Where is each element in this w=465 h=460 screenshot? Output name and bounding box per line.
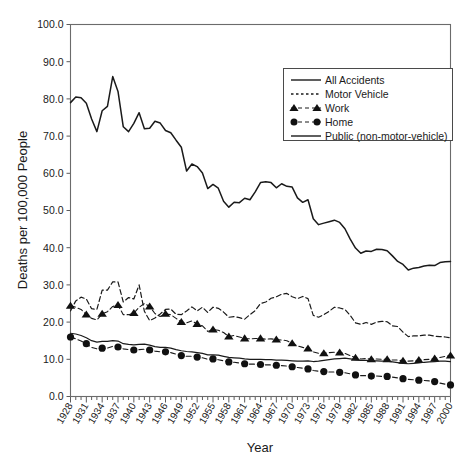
home-series-circle-marker [99,345,106,352]
home-series-circle-marker [289,363,296,370]
y-tick-label: 50.0 [43,204,64,216]
home-series-circle-marker [352,371,359,378]
home-series-circle-marker [447,381,454,388]
home-series-circle-marker [162,348,169,355]
chart-container: Deaths per 100,000 People 0.010.020.030.… [0,0,465,460]
legend-entry-label: Work [325,102,350,114]
y-tick-label: 70.0 [43,130,64,142]
home-series-circle-marker [336,369,343,376]
y-tick-label: 10.0 [43,353,64,365]
home-series-circle-marker [130,346,137,353]
home-series-circle-marker [83,340,90,347]
home-series-circle-marker [194,353,201,360]
legend-entry-label: Home [325,116,353,128]
home-series-circle-marker [146,346,153,353]
home-series-circle-marker [225,358,232,365]
home-series-circle-marker [209,355,216,362]
legend-entry-label: Motor Vehicle [325,88,389,100]
y-tick-label: 80.0 [43,93,64,105]
home-series-circle-marker [273,362,280,369]
y-tick-label: 40.0 [43,242,64,254]
y-tick-label: 100.0 [37,18,63,30]
y-tick-label: 0.0 [49,390,64,402]
y-tick-label: 90.0 [43,56,64,68]
x-axis-title-label: Year [247,440,274,455]
home-series-circle-marker [67,333,74,340]
y-tick-label: 20.0 [43,316,64,328]
legend-entry-label: All Accidents [325,74,385,86]
home-series-circle-marker [399,375,406,382]
home-series-circle-marker [384,373,391,380]
home-series-circle-marker [291,119,298,126]
home-series-circle-marker [241,360,248,367]
y-tick-label: 30.0 [43,279,64,291]
home-series-circle-marker [178,352,185,359]
y-tick-label: 60.0 [43,167,64,179]
y-axis-title-label: Deaths per 100,000 People [15,131,30,289]
home-series-circle-marker [320,368,327,375]
home-series-circle-marker [314,119,321,126]
home-series-circle-marker [114,343,121,350]
chart-legend: All AccidentsMotor VehicleWorkHomePublic… [284,69,453,142]
legend-entry-label: Public (non-motor-vehicle) [325,130,448,142]
y-axis-title: Deaths per 100,000 People [15,131,30,289]
home-series-circle-marker [304,365,311,372]
home-series-circle-marker [368,372,375,379]
home-series-circle-marker [415,377,422,384]
home-series-circle-marker [431,378,438,385]
home-series-circle-marker [257,361,264,368]
accident-death-rate-line-chart: Deaths per 100,000 People 0.010.020.030.… [0,0,465,460]
